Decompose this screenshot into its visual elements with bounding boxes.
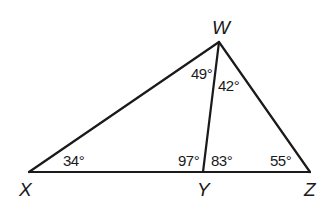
angle-label-wyz: 83° — [211, 152, 233, 169]
triangle-diagram: W X Y Z 34° 49° 42° 97° 83° 55° — [0, 0, 336, 209]
vertex-label-w: W — [212, 17, 232, 38]
vertex-label-z: Z — [303, 179, 317, 200]
angle-label-z: 55° — [270, 152, 292, 169]
angle-label-x: 34° — [63, 152, 85, 169]
angle-label-xyw: 97° — [178, 152, 200, 169]
vertex-label-y: Y — [197, 179, 211, 200]
vertex-label-x: X — [18, 179, 33, 200]
angle-label-xwy: 49° — [191, 65, 213, 82]
angle-label-ywz: 42° — [218, 77, 240, 94]
segment-wz — [219, 42, 310, 172]
